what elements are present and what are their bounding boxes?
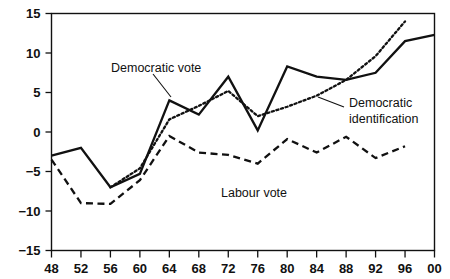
y-tick-label-1: −10 xyxy=(18,204,40,219)
annotation-democratic-identification-line1: Democratic xyxy=(349,96,412,110)
leader-democratic-vote xyxy=(153,74,171,97)
chart-figure: −15−10−5051015 4852566064687276808488929… xyxy=(0,0,450,279)
x-tick-label-1: 52 xyxy=(74,261,88,276)
chart-canvas: −15−10−5051015 4852566064687276808488929… xyxy=(0,0,450,279)
x-axis-tick-labels: 4852566064687276808488929600 xyxy=(44,261,441,276)
leader-democratic-identification xyxy=(318,97,344,107)
annotation-democratic-vote: Democratic vote xyxy=(111,61,201,75)
x-tick-label-7: 76 xyxy=(250,261,264,276)
x-tick-label-6: 72 xyxy=(221,261,235,276)
x-tick-label-2: 56 xyxy=(103,261,117,276)
annotation-labour-vote: Labour vote xyxy=(221,186,287,200)
x-tick-label-3: 60 xyxy=(133,261,147,276)
y-tick-label-4: 5 xyxy=(33,85,40,100)
plot-frame xyxy=(52,14,435,251)
x-tick-label-0: 48 xyxy=(44,261,58,276)
x-tick-label-9: 84 xyxy=(309,261,324,276)
x-tick-label-4: 64 xyxy=(162,261,177,276)
y-tick-label-5: 10 xyxy=(26,46,40,61)
y-axis-ticks xyxy=(46,14,52,251)
x-tick-label-5: 68 xyxy=(192,261,206,276)
y-tick-label-6: 15 xyxy=(26,6,40,21)
x-axis-ticks xyxy=(52,251,435,258)
annotation-democratic-identification-line2: identification xyxy=(349,112,419,126)
x-tick-label-8: 80 xyxy=(280,261,294,276)
x-tick-label-13: 00 xyxy=(427,261,441,276)
y-axis-tick-labels: −15−10−5051015 xyxy=(18,6,40,258)
x-tick-label-12: 96 xyxy=(398,261,412,276)
x-tick-label-10: 88 xyxy=(339,261,353,276)
y-tick-label-0: −15 xyxy=(18,243,40,258)
y-tick-label-2: −5 xyxy=(26,164,41,179)
x-tick-label-11: 92 xyxy=(368,261,382,276)
y-tick-label-3: 0 xyxy=(33,125,40,140)
